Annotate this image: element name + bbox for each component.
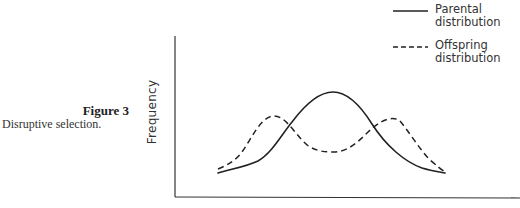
legend-parental-line2: distribution (435, 16, 501, 29)
legend-item-offspring: Offspring distribution (435, 39, 501, 65)
parental-distribution-curve (218, 92, 445, 173)
legend-item-parental: Parental distribution (435, 3, 501, 29)
legend-offspring-line2: distribution (435, 52, 501, 65)
chart-plot (0, 0, 520, 208)
x-axis (175, 197, 520, 198)
